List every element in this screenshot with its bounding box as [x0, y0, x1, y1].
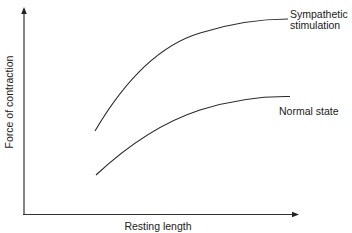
curve-normal-state [96, 96, 290, 175]
label-normal-state: Normal state [279, 105, 339, 117]
curve-sympathetic-stimulation [95, 19, 288, 131]
x-axis-label: Resting length [124, 220, 191, 232]
chart-canvas: Sympathetic stimulation Normal state Res… [0, 0, 352, 233]
x-axis-arrow-icon [292, 212, 299, 218]
y-axis-arrow-icon [21, 7, 27, 14]
y-axis-label: Force of contraction [3, 55, 15, 148]
label-sympathetic-line2: stimulation [290, 19, 340, 31]
